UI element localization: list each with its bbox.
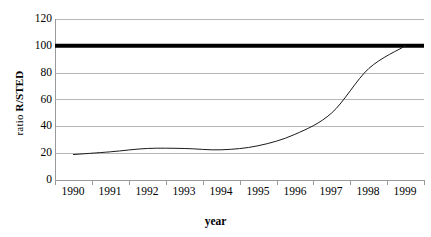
- y-tick-label-80: 80: [6, 67, 52, 79]
- y-tick-label-20: 20: [6, 147, 52, 159]
- x-tick-label-1993: 1993: [173, 185, 196, 197]
- chart-container: ratio R/STED 120 100 80 60 40 20 0 1990 …: [0, 0, 431, 237]
- x-tick-label-1991: 1991: [99, 185, 122, 197]
- y-tick-label-0: 0: [6, 174, 52, 186]
- y-tick-label-60: 60: [6, 94, 52, 106]
- y-tick-label-100: 100: [6, 40, 52, 52]
- x-axis-title: year: [0, 215, 431, 227]
- data-series-line: [73, 46, 405, 155]
- x-tick-label-1994: 1994: [210, 185, 233, 197]
- x-tick-6: [277, 180, 278, 185]
- x-tick-4: [203, 180, 204, 185]
- x-tick-label-1995: 1995: [247, 185, 270, 197]
- x-tick-0: [55, 180, 56, 185]
- x-tick-2: [129, 180, 130, 185]
- x-tick-label-1998: 1998: [357, 185, 380, 197]
- x-tick-10: [424, 180, 425, 185]
- x-tick-9: [387, 180, 388, 185]
- x-tick-5: [240, 180, 241, 185]
- x-tick-label-1990: 1990: [62, 185, 85, 197]
- x-tick-7: [313, 180, 314, 185]
- y-tick-label-120: 120: [6, 13, 52, 25]
- x-tick-label-1996: 1996: [284, 185, 307, 197]
- y-tick-label-40: 40: [6, 120, 52, 132]
- series-layer: [55, 19, 424, 180]
- x-tick-label-1999: 1999: [394, 185, 417, 197]
- y-axis-tick-labels: 120 100 80 60 40 20 0: [0, 0, 52, 237]
- x-tick-1: [92, 180, 93, 185]
- x-tick-label-1992: 1992: [136, 185, 159, 197]
- x-tick-label-1997: 1997: [320, 185, 343, 197]
- x-tick-8: [350, 180, 351, 185]
- x-tick-3: [166, 180, 167, 185]
